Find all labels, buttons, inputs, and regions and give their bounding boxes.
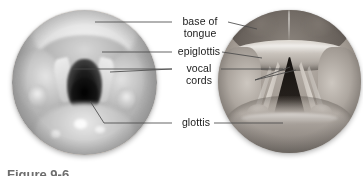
illus-tongue-texture-right: [298, 13, 338, 36]
laryngoscopic-photograph: [12, 10, 157, 155]
label-vocal-cords: vocal cords: [173, 62, 225, 86]
label-glottis: glottis: [174, 116, 218, 128]
illus-tongue-texture-left: [241, 13, 281, 36]
illustration-image: [218, 10, 361, 153]
label-base-of-tongue: base of tongue: [174, 15, 226, 39]
photo-specular-highlight-b: [95, 126, 105, 133]
photo-specular-highlight-c: [51, 130, 60, 137]
figure-caption: Figure 9-6: [7, 167, 69, 176]
illus-posterior-wall: [224, 96, 356, 153]
photo-lower-mucosa: [35, 103, 134, 155]
label-epiglottis: epiglottis: [170, 45, 228, 57]
photograph-image: [12, 10, 157, 155]
anatomy-figure: base of tongue epiglottis vocal cords gl…: [0, 0, 363, 176]
larynx-illustration: [218, 10, 361, 153]
